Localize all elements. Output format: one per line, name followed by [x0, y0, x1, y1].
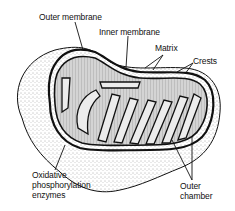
label-matrix: Matrix — [155, 43, 178, 53]
label-inner-membrane: Inner membrane — [99, 27, 160, 37]
label-crests: Crests — [193, 56, 217, 66]
label-outer-chamber-line1: Outer — [180, 181, 212, 191]
label-outer-membrane: Outer membrane — [39, 12, 102, 22]
label-outer-chamber: Outer chamber — [180, 181, 212, 201]
label-oxidative-line3: enzymes — [32, 190, 91, 200]
label-oxidative-enzymes: Oxidative phosphorylation enzymes — [32, 170, 91, 200]
label-oxidative-line2: phosphorylation — [32, 180, 91, 190]
label-oxidative-line1: Oxidative — [32, 170, 91, 180]
label-outer-chamber-line2: chamber — [180, 191, 212, 201]
